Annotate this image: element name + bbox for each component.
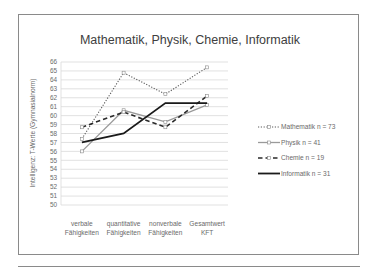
y-tick-label: 53 xyxy=(50,174,58,181)
y-tick-label: 60 xyxy=(50,112,58,119)
data-point-marker xyxy=(122,111,125,114)
legend-entry: Physik n = 41 xyxy=(281,139,321,147)
y-tick-label: 57 xyxy=(50,139,58,146)
y-tick-label: 58 xyxy=(50,130,58,137)
data-point-marker xyxy=(122,71,125,74)
y-axis-ticks: 5051525354555657585960616263646566 xyxy=(50,58,58,208)
series-line xyxy=(82,96,207,127)
legend-entry: Informatik n = 31 xyxy=(281,170,331,177)
data-point-marker xyxy=(80,126,83,129)
line-chart: Mathematik, Physik, Chemie, Informatik 5… xyxy=(0,0,378,274)
y-tick-label: 59 xyxy=(50,121,58,128)
data-point-marker xyxy=(80,150,83,153)
y-tick-label: 56 xyxy=(50,148,58,155)
y-tick-label: 64 xyxy=(50,76,58,83)
chart-title: Mathematik, Physik, Chemie, Informatik xyxy=(80,33,301,47)
data-point-marker xyxy=(164,126,167,129)
legend-entry: Chemie n = 19 xyxy=(281,154,324,161)
data-point-marker xyxy=(164,120,167,123)
data-point-marker xyxy=(206,94,209,97)
x-category-label: Fähigkeiten xyxy=(65,229,99,237)
legend-entry: Mathematik n = 73 xyxy=(281,123,336,130)
x-category-label: Gesamtwert xyxy=(189,220,225,227)
x-category-label: Fähigkeiten xyxy=(107,229,141,237)
x-category-label: Fähigkeiten xyxy=(148,229,182,237)
x-category-label: KFT xyxy=(201,229,213,236)
data-point-marker xyxy=(164,93,167,96)
y-tick-label: 63 xyxy=(50,85,58,92)
y-tick-label: 55 xyxy=(50,157,58,164)
data-point-marker xyxy=(80,137,83,140)
x-category-label: quantitative xyxy=(107,220,141,228)
series-lines xyxy=(80,66,208,153)
x-category-label: nonverbale xyxy=(149,220,182,227)
data-point-marker xyxy=(206,66,209,69)
y-axis-label: Intelligenz: T-Werte (Gymnasialnorm) xyxy=(29,79,37,188)
y-tick-label: 62 xyxy=(50,94,58,101)
x-category-label: verbale xyxy=(71,220,93,227)
y-tick-label: 66 xyxy=(50,58,58,65)
y-tick-label: 52 xyxy=(50,183,58,190)
y-tick-label: 51 xyxy=(50,192,58,199)
x-axis-categories: verbaleFähigkeitenquantitativeFähigkeite… xyxy=(65,220,225,237)
y-tick-label: 61 xyxy=(50,103,58,110)
series-line xyxy=(82,105,207,151)
series-line xyxy=(82,103,207,142)
legend: Mathematik n = 73Physik n = 41Chemie n =… xyxy=(258,123,336,177)
y-tick-label: 50 xyxy=(50,201,58,208)
y-tick-label: 54 xyxy=(50,165,58,172)
y-tick-label: 65 xyxy=(50,67,58,74)
